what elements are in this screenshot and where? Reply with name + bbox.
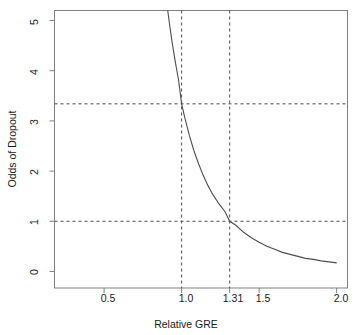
y-tick-label-2: 2 — [28, 169, 40, 175]
figure-background — [0, 0, 357, 335]
x-axis-title: Relative GRE — [154, 318, 218, 330]
y-tick-label-3: 3 — [28, 119, 40, 125]
chart-figure: 0.5 1.0 1.31 1.5 2.0 0 1 2 3 4 5 Relativ… — [0, 0, 357, 335]
odds-of-dropout-plot: 0.5 1.0 1.31 1.5 2.0 0 1 2 3 4 5 Relativ… — [0, 0, 357, 335]
x-tick-label-1: 1.0 — [179, 292, 194, 304]
y-tick-label-4: 4 — [28, 69, 40, 75]
x-tick-label-4: 2.0 — [334, 292, 349, 304]
x-tick-label-0: 0.5 — [101, 292, 116, 304]
y-tick-label-5: 5 — [28, 19, 40, 25]
x-tick-label-2: 1.31 — [223, 292, 244, 304]
x-tick-label-3: 1.5 — [256, 292, 271, 304]
y-axis-title: Odds of Dropout — [6, 110, 18, 187]
y-tick-label-0: 0 — [28, 269, 40, 275]
y-tick-label-1: 1 — [28, 219, 40, 225]
